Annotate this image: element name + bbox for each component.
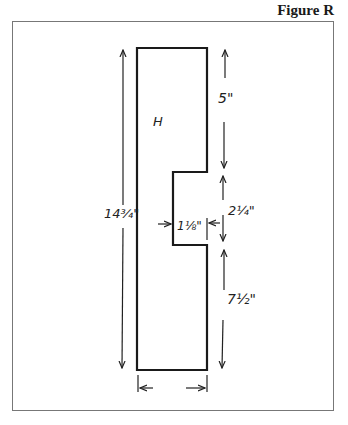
part-outline	[137, 48, 207, 370]
overall-height-label: 14¾"	[104, 206, 139, 221]
top-segment-dimension	[224, 50, 225, 168]
top-segment-label: 5"	[218, 90, 233, 106]
bottom-segment-label: 7½"	[227, 291, 256, 307]
notch-height-label: 2¼"	[228, 203, 255, 218]
notch-depth-label: 1⅛"	[177, 219, 202, 233]
width-dimension	[138, 375, 207, 392]
diagram-canvas: H 14¾" 5" 2¼" 1⅛" 7½"	[0, 0, 348, 425]
bottom-segment-dimension	[222, 250, 224, 368]
part-label: H	[153, 114, 163, 129]
